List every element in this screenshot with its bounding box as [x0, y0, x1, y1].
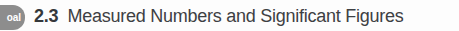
section-header-banner: oal 2.3 Measured Numbers and Significant… — [0, 0, 459, 31]
goal-badge-label: oal — [7, 13, 21, 23]
goal-badge: oal — [0, 5, 25, 30]
page-title: 2.3 Measured Numbers and Significant Fig… — [34, 0, 459, 31]
section-title: Measured Numbers and Significant Figures — [67, 7, 403, 25]
section-number: 2.3 — [34, 7, 58, 25]
